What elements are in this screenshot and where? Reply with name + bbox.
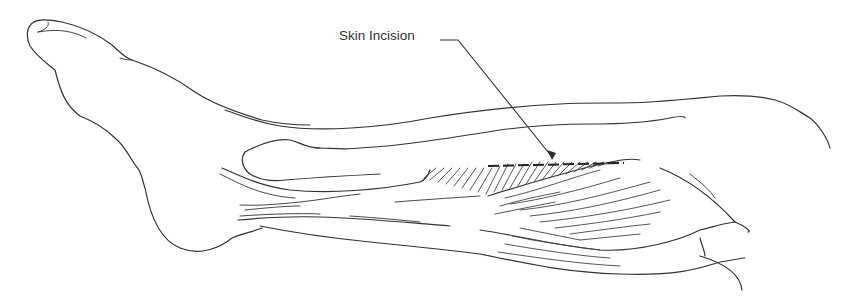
- leg-illustration: Skin Incision: [0, 0, 854, 299]
- leader-arrowhead-icon: [547, 150, 556, 160]
- shin-lines: [220, 96, 830, 198]
- label-leader-line: [440, 40, 552, 157]
- incision-hatching: [424, 162, 670, 266]
- foot-outline: [27, 20, 310, 252]
- skin-incision-label: Skin Incision: [339, 28, 415, 44]
